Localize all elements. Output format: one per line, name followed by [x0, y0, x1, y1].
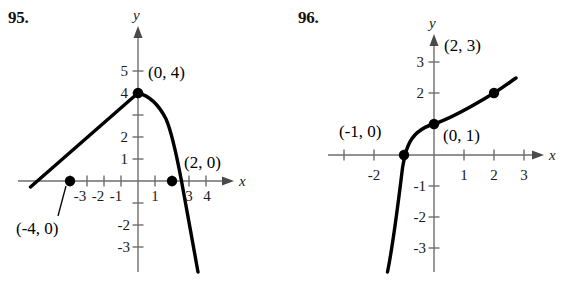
y-tick-label--2: -2 [118, 217, 131, 233]
y-tick-label-4: 4 [121, 85, 129, 101]
y-tick-label--3: -3 [414, 240, 427, 256]
y-tick-label-2: 2 [417, 85, 425, 101]
y-tick-label--3: -3 [118, 239, 131, 255]
coordinate-plane-95: x y -3 -2 -1 1 3 4 5 4 2 1 -2 -3 (0, 4) … [0, 0, 283, 282]
x-tick-label--2: -2 [92, 188, 105, 204]
x-axis-label: x [548, 147, 556, 163]
x-tick-label-1: 1 [151, 188, 159, 204]
y-tick-label-3: 3 [417, 54, 425, 70]
point-0-1 [429, 119, 439, 129]
y-tick-label-2: 2 [121, 129, 129, 145]
point-2-0 [167, 176, 177, 186]
problem-96: 96. [284, 0, 567, 282]
x-tick-label-3: 3 [520, 167, 528, 183]
point-label--4-0: (-4, 0) [16, 219, 58, 238]
x-tick-label--3: -3 [74, 188, 87, 204]
x-tick-label--2: -2 [368, 167, 381, 183]
y-axis-arrowhead [134, 26, 143, 38]
x-tick-label-4: 4 [203, 188, 211, 204]
x-tick-label--1: -1 [110, 188, 123, 204]
coordinate-plane-96: x y -2 1 2 3 3 2 -1 -2 -3 (2, 3) (-1, 0)… [284, 0, 567, 282]
point-label-0-4: (0, 4) [148, 63, 185, 82]
x-axis-arrowhead [532, 151, 544, 160]
leader-line-minus4-0 [58, 186, 66, 216]
graph-figure-96: x y -2 1 2 3 3 2 -1 -2 -3 (2, 3) (-1, 0)… [284, 0, 567, 282]
y-tick-label--1: -1 [414, 178, 427, 194]
y-tick-label-5: 5 [121, 63, 129, 79]
point-label--1-0: (-1, 0) [339, 122, 381, 141]
y-axis-label: y [131, 7, 140, 23]
point-label-0-1: (0, 1) [443, 126, 480, 145]
x-tick-label-2: 2 [490, 167, 498, 183]
x-tick-label-1: 1 [460, 167, 468, 183]
y-tick-label-1: 1 [121, 151, 129, 167]
point-label-2-0: (2, 0) [184, 153, 221, 172]
point-2-3 [489, 88, 499, 98]
point-0-4 [133, 88, 143, 98]
point-minus4-0 [65, 176, 75, 186]
x-tick-label-3: 3 [185, 188, 193, 204]
y-tick-label--2: -2 [414, 209, 427, 225]
point-label-2-3: (2, 3) [444, 36, 481, 55]
y-axis-label: y [427, 15, 436, 31]
x-axis-arrowhead [222, 177, 234, 186]
point-minus1-0 [399, 150, 409, 160]
x-axis-label: x [238, 173, 246, 189]
worksheet-page: 95. [0, 0, 567, 282]
y-axis-arrowhead [430, 34, 439, 46]
graph-figure-95: x y -3 -2 -1 1 3 4 5 4 2 1 -2 -3 (0, 4) … [0, 0, 283, 282]
problem-95: 95. [0, 0, 283, 282]
